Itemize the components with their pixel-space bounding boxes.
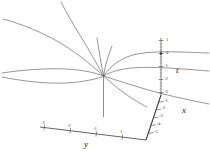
t-axis-group: [159, 38, 164, 95]
t-tick-label-neg2: -2: [164, 77, 168, 82]
t-tick-label-neg1: -1: [164, 64, 168, 69]
y-axis-label: y: [84, 140, 88, 149]
y-tick-neg1: [96, 131, 97, 136]
y-tick-1: [122, 134, 123, 139]
solution-curve-right-lower: [104, 76, 210, 104]
y-tick-label-neg1: -1: [93, 127, 97, 132]
x-tick-label-neg5: -5: [154, 130, 158, 135]
solution-curve-mid-left: [2, 69, 104, 76]
solution-curve-lower-left: [2, 77, 104, 84]
x-axis-label: x: [182, 106, 186, 115]
solution-curve-short-branch: [104, 76, 148, 107]
x-tick-neg4: [151, 125, 156, 126]
solution-curve-right-middle: [104, 67, 210, 76]
y-tick-label-1: 1: [120, 130, 122, 135]
y-tick-neg3: [44, 125, 45, 130]
t-tick-label-0: 0: [166, 51, 168, 56]
solution-curve-focus-branch-b: [104, 46, 113, 76]
x-tick-label-neg1: -1: [164, 99, 168, 104]
y-tick-label-neg3: -3: [41, 121, 45, 126]
t-tick-label-1: 1: [166, 38, 168, 43]
plot-canvas: [0, 0, 210, 156]
solution-curve-upper-left: [3, 19, 104, 76]
x-tick-label-neg3: -3: [159, 114, 163, 119]
solution-curve-group: [2, 2, 209, 107]
y-tick-neg2: [70, 128, 71, 133]
figure-container: t x y 1 0 -1 -2 -3 -1 -2 -3 -4 -5 -3 -2 …: [0, 0, 210, 156]
x-tick-label-neg2: -2: [162, 106, 166, 111]
solution-curve-right-upper: [104, 52, 210, 76]
t-tick-label-neg3: -3: [164, 90, 168, 95]
x-tick-label-neg4: -4: [157, 122, 161, 127]
t-axis-origin-marker: [160, 52, 163, 55]
x-tick-neg5: [148, 133, 153, 134]
t-axis-label: t: [176, 66, 179, 75]
y-tick-label-neg2: -2: [67, 124, 71, 129]
